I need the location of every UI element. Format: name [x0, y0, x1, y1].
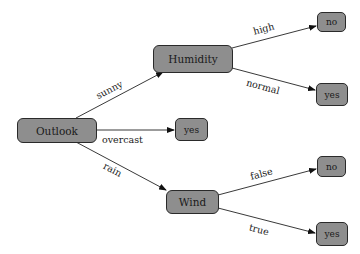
node-outlook: Outlook — [17, 118, 97, 143]
leaf-wind-true: yes — [316, 222, 348, 246]
node-wind: Wind — [166, 190, 219, 214]
node-humidity: Humidity — [153, 45, 233, 73]
leaf-humidity-normal: yes — [316, 83, 348, 106]
leaf-overcast: yes — [175, 118, 208, 141]
leaf-humidity-high: no — [317, 12, 346, 32]
leaf-wind-false: no — [317, 156, 346, 177]
label-overcast: overcast — [102, 134, 143, 145]
edge-rain — [76, 142, 166, 190]
